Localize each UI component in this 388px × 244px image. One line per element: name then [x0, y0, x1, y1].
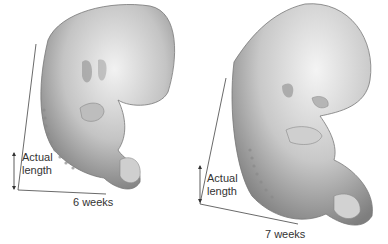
embryo-figure — [0, 0, 388, 244]
label-line: Actual — [207, 172, 238, 185]
label-line: length — [207, 185, 238, 198]
caption-6-weeks: 6 weeks — [73, 196, 113, 208]
label-line: Actual — [22, 151, 53, 164]
label-line: length — [22, 164, 53, 177]
caption-7-weeks: 7 weeks — [265, 228, 305, 240]
actual-length-label-6-weeks: Actual length — [22, 151, 53, 177]
actual-length-label-7-weeks: Actual length — [207, 172, 238, 198]
